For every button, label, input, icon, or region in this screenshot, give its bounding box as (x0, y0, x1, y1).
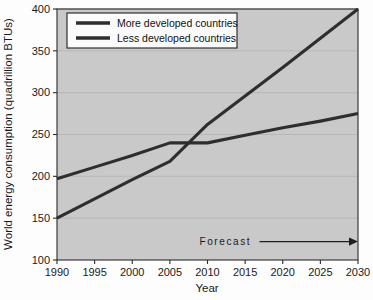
y-tick-label: 250 (32, 128, 50, 140)
y-tick-label: 400 (32, 3, 50, 15)
y-axis-tick-labels: 100150200250300350400 (32, 3, 50, 266)
x-tick-label: 2020 (271, 266, 295, 278)
y-tick-label: 150 (32, 212, 50, 224)
x-axis-title: Year (195, 282, 218, 294)
y-axis-ticks (53, 9, 57, 260)
y-tick-label: 350 (32, 45, 50, 57)
x-tick-label: 1995 (82, 266, 106, 278)
x-axis-tick-labels: 199019952000200520102015202020252030 (45, 266, 370, 278)
x-tick-label: 2000 (120, 266, 144, 278)
y-tick-label: 100 (32, 254, 50, 266)
x-tick-label: 2005 (158, 266, 182, 278)
legend-label-less-developed: Less developed countries (117, 32, 236, 44)
x-tick-label: 2010 (195, 266, 219, 278)
line-chart: 100150200250300350400 199019952000200520… (0, 0, 373, 300)
x-tick-label: 2025 (308, 266, 332, 278)
chart-figure: 100150200250300350400 199019952000200520… (0, 0, 373, 300)
x-axis-ticks (57, 260, 358, 264)
forecast-label: Forecast (200, 236, 252, 247)
legend-label-more-developed: More developed countries (117, 17, 238, 29)
x-tick-label: 1990 (45, 266, 69, 278)
y-tick-label: 200 (32, 170, 50, 182)
y-tick-label: 300 (32, 86, 50, 98)
chart-legend: More developed countries Less developed … (67, 13, 238, 48)
x-tick-label: 2030 (346, 266, 370, 278)
y-axis-title: World energy consumption (quadrillion BT… (2, 18, 14, 250)
x-tick-label: 2015 (233, 266, 257, 278)
